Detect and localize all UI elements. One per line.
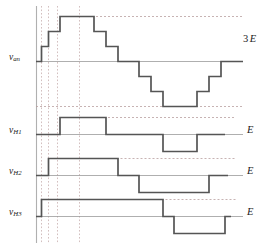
signal-van (36, 17, 243, 107)
level-label-vh1: E (247, 124, 253, 135)
axis-label-van-subscript: an (13, 55, 20, 62)
level-label-van-value: 3 (243, 33, 248, 44)
waveform-plot (0, 0, 268, 249)
axis-label-vh1-subscript: H1 (13, 128, 21, 135)
signal-vh3 (36, 200, 243, 234)
signal-vh1 (36, 118, 243, 152)
level-label-vh1-symbol: E (247, 124, 253, 135)
signal-vh2 (36, 159, 243, 193)
level-label-van-symbol: E (250, 33, 256, 44)
level-label-vh2-symbol: E (247, 165, 253, 176)
axis-label-van: van (9, 52, 20, 62)
level-label-vh2: E (247, 165, 253, 176)
level-label-vh3-symbol: E (247, 206, 253, 217)
level-label-vh3: E (247, 206, 253, 217)
waveform-figure: van vH1 vH2 vH3 3E E E E (0, 0, 268, 249)
axis-label-vh3: vH3 (9, 207, 22, 217)
level-label-van: 3E (243, 33, 256, 44)
axis-label-vh3-subscript: H3 (13, 210, 21, 217)
axis-label-vh2-subscript: H2 (13, 169, 21, 176)
axis-label-vh1: vH1 (9, 125, 22, 135)
axis-label-vh2: vH2 (9, 166, 22, 176)
